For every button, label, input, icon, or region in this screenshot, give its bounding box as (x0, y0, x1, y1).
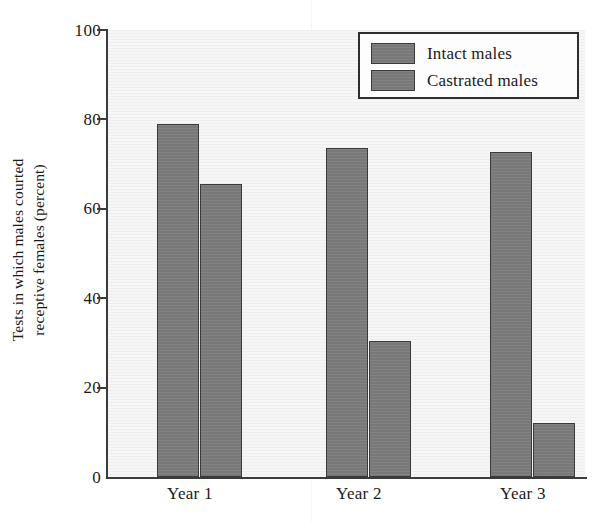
y-tick-label-100: 100 (55, 22, 101, 39)
chart-legend: Intact males Castrated males (358, 32, 579, 99)
legend-label-intact-males: Intact males (427, 45, 512, 63)
y-tick-label-20: 20 (55, 379, 101, 396)
y-axis-label-line2: receptive females (percent) (28, 159, 49, 342)
bar-chart-figure: Tests in which males courted receptive f… (0, 0, 608, 522)
x-tick-label-year-2: Year 2 (299, 484, 419, 504)
legend-entry-intact-males: Intact males (360, 40, 577, 67)
y-axis-line (106, 29, 108, 479)
y-axis-tick-labels: 100 80 60 40 20 0 (49, 0, 101, 522)
y-tick-label-80: 80 (55, 111, 101, 128)
bar-year3-castrated (533, 423, 575, 477)
x-axis-line (106, 477, 587, 479)
legend-swatch-castrated-males (371, 70, 415, 91)
bar-year2-intact (326, 148, 368, 477)
y-axis-label: Tests in which males courted receptive f… (0, 0, 56, 500)
bar-year3-intact (490, 152, 532, 477)
bar-year1-castrated (200, 184, 242, 477)
y-axis-label-line1: Tests in which males courted (9, 159, 26, 342)
legend-entry-castrated-males: Castrated males (360, 67, 577, 94)
legend-swatch-intact-males (371, 43, 415, 64)
y-tick-label-0: 0 (55, 469, 101, 486)
bar-year1-intact (157, 124, 199, 477)
bar-year2-castrated (369, 341, 411, 477)
y-tick-label-40: 40 (55, 290, 101, 307)
x-tick-label-year-3: Year 3 (463, 484, 583, 504)
x-tick-label-year-1: Year 1 (130, 484, 250, 504)
y-tick-label-60: 60 (55, 200, 101, 217)
legend-label-castrated-males: Castrated males (427, 72, 538, 90)
